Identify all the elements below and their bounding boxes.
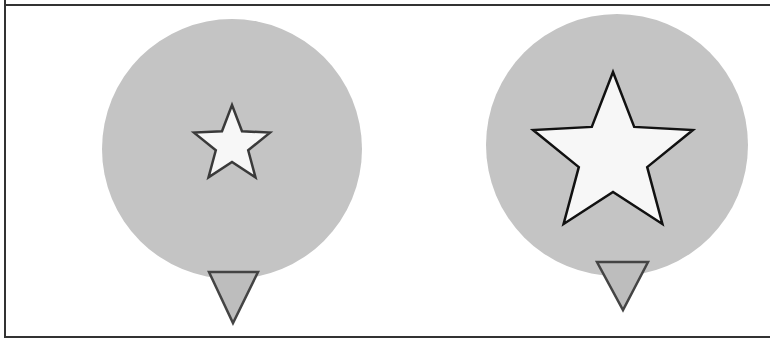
left-marker-panel (102, 19, 362, 323)
figure-canvas (0, 0, 770, 346)
right-pointer-triangle-icon (597, 262, 648, 310)
right-marker-panel (486, 14, 748, 310)
left-pointer-triangle-icon (209, 272, 258, 323)
